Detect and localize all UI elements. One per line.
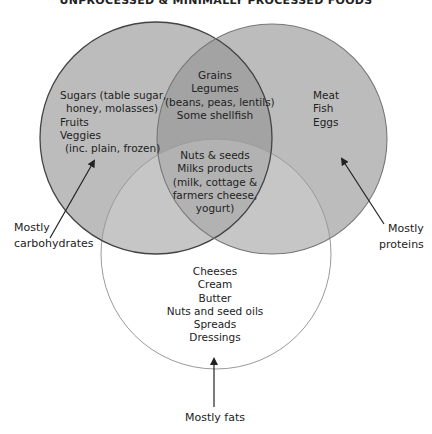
fats-item: Dressings <box>160 331 270 344</box>
venn-diagram <box>0 0 432 434</box>
proteins-label: Mostly proteins <box>379 221 424 253</box>
fats-item: Spreads <box>160 318 270 331</box>
fats-item: Butter <box>160 292 270 305</box>
carbs-item: Fruits <box>60 116 166 129</box>
all-three-item: yogurt) <box>165 202 265 215</box>
overlap-item: (beans, peas, lentils) <box>165 96 265 109</box>
proteins-items: Meat Fish Eggs <box>313 89 339 129</box>
carbs-proteins-items: Grains Legumes (beans, peas, lentils) So… <box>165 69 265 122</box>
carbs-label-line: Mostly <box>14 220 94 236</box>
carbs-items: Sugars (table sugar, honey, molasses) Fr… <box>60 89 166 155</box>
fats-item: Cream <box>160 278 270 291</box>
carbs-item: Sugars (table sugar, <box>60 89 166 102</box>
all-three-item: Nuts & seeds <box>165 149 265 162</box>
overlap-item: Some shellfish <box>165 109 265 122</box>
all-three-item: Milks products <box>165 162 265 175</box>
proteins-item: Meat <box>313 89 339 102</box>
fats-label: Mostly fats <box>160 410 270 426</box>
all-three-items: Nuts & seeds Milks products (milk, cotta… <box>165 149 265 215</box>
fats-items: Cheeses Cream Butter Nuts and seed oils … <box>160 265 270 345</box>
carbs-label: Mostly carbohydrates <box>14 220 94 252</box>
fats-item: Nuts and seed oils <box>160 305 270 318</box>
proteins-label-line: Mostly <box>379 221 424 237</box>
carbs-label-line: carbohydrates <box>14 236 94 252</box>
overlap-item: Legumes <box>165 82 265 95</box>
carbs-item: honey, molasses) <box>60 102 166 115</box>
proteins-label-line: proteins <box>379 237 424 253</box>
all-three-item: farmers cheese, <box>165 189 265 202</box>
proteins-item: Fish <box>313 102 339 115</box>
fats-item: Cheeses <box>160 265 270 278</box>
carbs-item: (inc. plain, frozen) <box>60 142 166 155</box>
fats-label-text: Mostly fats <box>185 411 245 424</box>
carbs-item: Veggies <box>60 129 166 142</box>
proteins-item: Eggs <box>313 116 339 129</box>
all-three-item: (milk, cottage & <box>165 176 265 189</box>
overlap-item: Grains <box>165 69 265 82</box>
